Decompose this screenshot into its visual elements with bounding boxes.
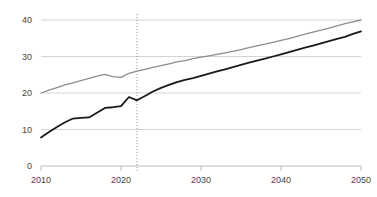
x-tick-label: 2050 xyxy=(351,175,371,185)
y-tick-label: 0 xyxy=(27,161,32,171)
line-chart: 010203040 20102020203020402050 xyxy=(0,0,377,197)
y-tick-label: 30 xyxy=(22,52,32,62)
y-axis-tick-labels: 010203040 xyxy=(22,15,32,171)
x-axis-tick-labels: 20102020203020402050 xyxy=(31,175,371,185)
y-tick-label: 40 xyxy=(22,15,32,25)
x-tick-label: 2040 xyxy=(271,175,291,185)
chart-container: 010203040 20102020203020402050 xyxy=(0,0,377,197)
series-group xyxy=(41,20,361,138)
y-tick-label: 10 xyxy=(22,125,32,135)
series-line-lower-series xyxy=(41,31,361,137)
x-tick-label: 2010 xyxy=(31,175,51,185)
y-tick-label: 20 xyxy=(22,88,32,98)
x-tick-label: 2020 xyxy=(111,175,131,185)
gridline-group xyxy=(41,20,361,130)
x-axis-tick-marks xyxy=(41,166,361,171)
x-tick-label: 2030 xyxy=(191,175,211,185)
